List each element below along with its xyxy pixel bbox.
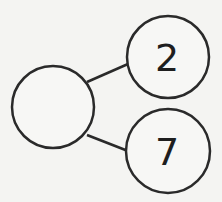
connector-top	[87, 64, 128, 82]
part-value-bottom: 7	[155, 130, 179, 174]
part-value-top: 2	[155, 36, 179, 80]
part-circle-bottom: 7	[126, 109, 210, 193]
number-bond-diagram: 2 7	[0, 0, 222, 202]
connector-bottom	[87, 135, 128, 151]
whole-circle	[12, 66, 94, 148]
part-circle-top: 2	[127, 16, 209, 98]
